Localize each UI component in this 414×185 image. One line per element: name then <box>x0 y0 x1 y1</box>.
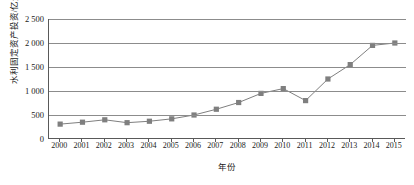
data-point-marker <box>325 76 330 81</box>
gridline <box>49 115 406 116</box>
y-tick-label: 1 500 <box>8 63 44 72</box>
data-point-marker <box>102 117 107 122</box>
data-point-marker <box>303 98 308 103</box>
x-axis-tick-labels: 2000200120022003200420052006200720082009… <box>48 141 405 155</box>
data-point-marker <box>236 100 241 105</box>
gridline <box>49 91 406 92</box>
gridline <box>49 43 406 44</box>
data-point-marker <box>169 116 174 121</box>
data-point-marker <box>124 120 129 125</box>
gridline <box>49 19 406 20</box>
y-axis-tick-labels: 05001 0001 5002 0002 500 <box>8 0 44 185</box>
y-tick-label: 0 <box>8 135 44 144</box>
gridline <box>49 67 406 68</box>
y-tick-label: 2 500 <box>8 15 44 24</box>
x-axis-title: 年份 <box>48 160 405 172</box>
plot-area <box>48 19 405 139</box>
x-tick-label: 2015 <box>377 141 411 151</box>
y-tick-label: 1 000 <box>8 87 44 96</box>
series-line <box>49 19 406 139</box>
data-line <box>60 43 395 124</box>
data-point-marker <box>80 120 85 125</box>
y-tick-label: 2 000 <box>8 39 44 48</box>
chart-container: 水利固定资产投资/亿元 05001 0001 5002 0002 500 200… <box>0 0 414 185</box>
y-tick-label: 500 <box>8 111 44 120</box>
data-point-marker <box>58 122 63 127</box>
data-point-marker <box>147 119 152 124</box>
data-point-marker <box>214 107 219 112</box>
